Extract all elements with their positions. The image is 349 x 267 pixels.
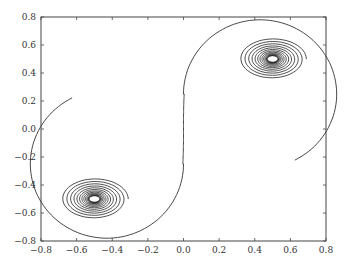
y-tick-label: −0.2 [14,152,36,162]
x-tick-label: −0.8 [30,245,52,255]
x-tick-label: 0.2 [212,245,226,255]
x-tick-label: −0.6 [66,245,88,255]
y-tick-label: 0.6 [22,40,37,50]
x-tick-label: 0.4 [248,245,263,255]
y-axis-tick-labels: 0.80.60.40.20.0−0.2−0.4−0.6−0.8 [14,12,36,246]
spiral-upper-right [241,39,307,78]
y-tick-label: 0.2 [22,96,36,106]
y-tick-label: 0.0 [22,124,37,134]
x-tick-label: 0.8 [319,245,334,255]
x-tick-label: 0.0 [176,245,191,255]
x-tick-label: −0.2 [137,245,159,255]
trajectory-line [30,20,336,238]
x-tick-label: −0.4 [101,245,123,255]
y-tick-label: −0.6 [14,208,36,218]
y-tick-label: −0.8 [14,236,36,246]
x-axis-tick-labels: −0.8−0.6−0.4−0.20.00.20.40.60.8 [30,245,333,255]
y-tick-label: 0.8 [22,12,37,22]
spiral-lower-left [63,179,129,218]
y-tick-label: 0.4 [22,68,37,78]
chart: −0.8−0.6−0.4−0.20.00.20.40.60.8 0.80.60.… [0,0,349,267]
x-tick-label: 0.6 [283,245,298,255]
